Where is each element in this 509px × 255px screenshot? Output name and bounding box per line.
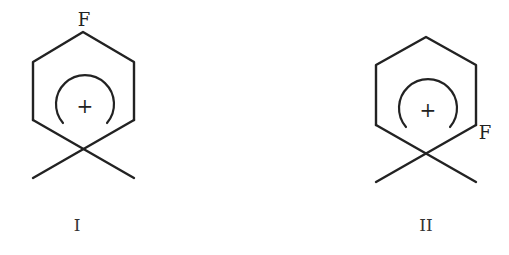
structure-II: + F II: [376, 37, 491, 235]
fluorine-atom-I: F: [78, 9, 91, 30]
structure-label-II: II: [419, 215, 432, 235]
structure-label-I: I: [74, 215, 81, 235]
plus-charge-I: +: [77, 94, 94, 118]
diagram-canvas: + F I + F II: [0, 0, 509, 255]
plus-charge-II: +: [420, 98, 437, 122]
fluorine-atom-II: F: [479, 122, 492, 143]
structure-I: + F I: [33, 9, 134, 235]
